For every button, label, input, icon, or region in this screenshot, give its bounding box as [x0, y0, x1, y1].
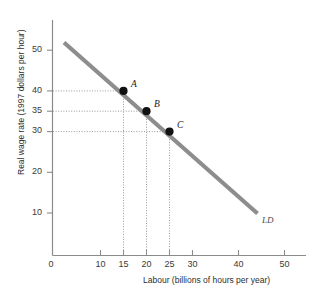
- data-point-c: [165, 128, 173, 136]
- y-tick-label-10: 10: [22, 207, 42, 217]
- labour-demand-curve: [64, 43, 258, 214]
- x-axis-title: Labour (billions of hours per year): [143, 275, 270, 285]
- guide-lines: [53, 91, 170, 255]
- y-axis-title: Real wage rate (1997 dollars per hour): [16, 29, 26, 175]
- data-point-a: [119, 87, 127, 95]
- x-tick-label-30: 30: [183, 259, 202, 269]
- x-tick-label-40: 40: [229, 259, 248, 269]
- chart-figure: 50 40 35 30 20 10 0 10 15 20 25 30 40 50…: [0, 0, 316, 298]
- x-tick-label-15: 15: [114, 259, 133, 269]
- x-tick-label-0: 0: [42, 259, 60, 269]
- curve-label-ld: LD: [262, 215, 274, 225]
- point-label-b: B: [154, 99, 160, 109]
- x-axis-ticks: [101, 250, 285, 256]
- x-tick-label-10: 10: [91, 259, 110, 269]
- x-tick-label-25: 25: [160, 259, 179, 269]
- labour-demand-plot: [0, 0, 316, 298]
- x-tick-label-20: 20: [137, 259, 156, 269]
- point-label-c: C: [177, 120, 183, 130]
- y-axis-ticks: [47, 50, 53, 213]
- point-label-a: A: [131, 79, 137, 89]
- data-point-b: [142, 107, 150, 115]
- x-tick-label-50: 50: [275, 259, 294, 269]
